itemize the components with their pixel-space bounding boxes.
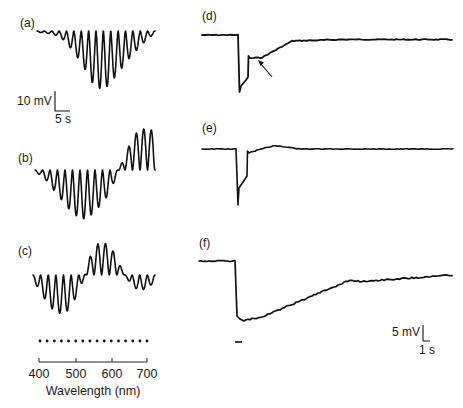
- stimulus-dot: [89, 340, 92, 343]
- wavelength-axis: 400 500 600 700 Wavelength (nm): [29, 358, 158, 398]
- panel-label-b: (b): [18, 151, 33, 165]
- stimulus-dots: [39, 340, 149, 343]
- arrow-icon: [261, 64, 272, 77]
- stimulus-dot: [46, 340, 49, 343]
- trace-a: [37, 31, 155, 88]
- panel-label-f: (f): [199, 236, 210, 250]
- panel-label-a: (a): [20, 16, 35, 30]
- stimulus-dot: [124, 340, 127, 343]
- panel-label-d: (d): [202, 9, 217, 23]
- stimulus-dot: [103, 340, 106, 343]
- figure: (a) (b) (c) (d) (e) (f) 10 mV 5 s 400 50…: [0, 0, 463, 408]
- arrowhead-icon: [258, 60, 264, 66]
- stimulus-dot: [81, 340, 84, 343]
- panel-label-c: (c): [18, 244, 32, 258]
- scale-time-right: 1 s: [419, 343, 435, 357]
- stimulus-dot: [131, 340, 134, 343]
- scale-bar-left: 10 mV 5 s: [17, 91, 71, 126]
- scale-bar-right: 5 mV 1 s: [392, 325, 435, 357]
- scale-voltage-right: 5 mV: [392, 325, 420, 339]
- stimulus-dot: [74, 340, 77, 343]
- trace-e: [202, 146, 453, 205]
- axis-tick-500: 500: [66, 367, 87, 381]
- trace-c: [33, 244, 155, 314]
- stimulus-dot: [139, 340, 142, 343]
- axis-tick-700: 700: [137, 367, 158, 381]
- axis-label: Wavelength (nm): [46, 384, 141, 398]
- stimulus-dot: [39, 340, 42, 343]
- axis-tick-400: 400: [29, 367, 50, 381]
- stimulus-dot: [67, 340, 70, 343]
- trace-f: [199, 261, 452, 322]
- stimulus-dot: [96, 340, 99, 343]
- trace-d: [202, 35, 452, 92]
- scale-voltage-left: 10 mV: [17, 94, 52, 108]
- scale-time-left: 5 s: [55, 112, 71, 126]
- panel-label-e: (e): [202, 121, 217, 135]
- stimulus-dot: [146, 340, 149, 343]
- axis-tick-600: 600: [102, 367, 123, 381]
- trace-b: [35, 129, 155, 219]
- stimulus-dot: [60, 340, 63, 343]
- stimulus-dot: [53, 340, 56, 343]
- stimulus-dot: [117, 340, 120, 343]
- stimulus-dot: [110, 340, 113, 343]
